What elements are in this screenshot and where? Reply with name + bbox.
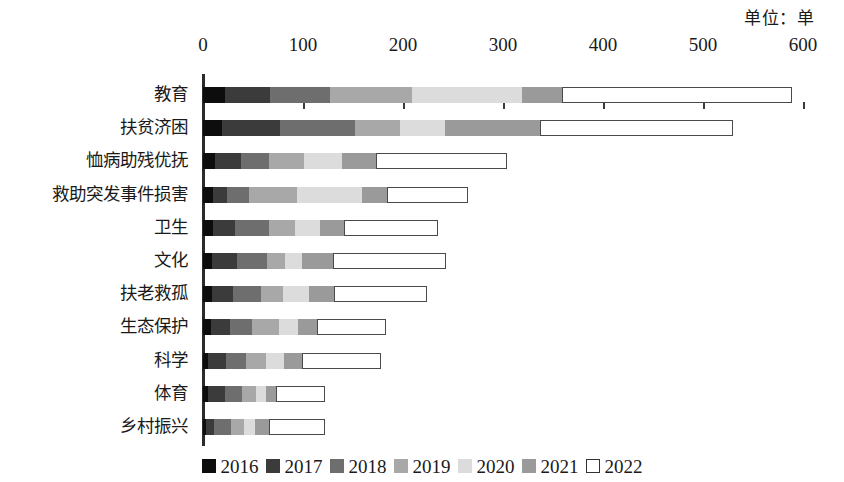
bar-row (203, 87, 803, 103)
legend-label: 2020 (477, 457, 515, 476)
bar-segment-2021 (309, 286, 334, 302)
legend-label: 2017 (285, 457, 323, 476)
unit-label: 单位：单 (744, 4, 814, 29)
bar-segment-2022 (269, 419, 325, 435)
x-tick-label-300: 300 (489, 34, 518, 56)
bar-segment-2022 (540, 120, 733, 136)
bar-segment-2018 (270, 87, 330, 103)
bar-segment-2021 (522, 87, 562, 103)
x-tick-label-100: 100 (289, 34, 318, 56)
legend-item-2021[interactable]: 2021 (522, 457, 579, 476)
bar-segment-2022 (376, 153, 507, 169)
bar-segment-2017 (211, 319, 230, 335)
bar-segment-2018 (214, 419, 231, 435)
bar-row (203, 319, 803, 335)
category-label: 文化 (154, 252, 188, 270)
bar-row (203, 220, 803, 236)
x-tick-mark-600 (803, 102, 805, 109)
bar-segment-2019 (249, 187, 297, 203)
x-tick-label-500: 500 (689, 34, 718, 56)
bar-segment-2020 (304, 153, 342, 169)
bar-segment-2018 (226, 353, 246, 369)
bar-segment-2022 (317, 319, 386, 335)
bar-segment-2022 (562, 87, 792, 103)
x-tick-label-600: 600 (789, 34, 818, 56)
bar-segment-2022 (387, 187, 468, 203)
legend-label: 2018 (349, 457, 387, 476)
x-tick-label-0: 0 (198, 34, 208, 56)
bar-segment-2017 (208, 353, 226, 369)
x-axis-tick-labels: 0100200300400500600 (0, 34, 844, 62)
bar-segment-2016 (203, 87, 225, 103)
bar-segment-2017 (212, 286, 233, 302)
bar-segment-2017 (225, 87, 270, 103)
category-label: 恤病助残优抚 (86, 152, 188, 170)
bar-segment-2021 (284, 353, 302, 369)
category-label: 生态保护 (120, 318, 188, 336)
bar-segment-2021 (266, 386, 276, 402)
bar-segment-2020 (256, 386, 266, 402)
bar-segment-2018 (237, 253, 267, 269)
legend-label: 2016 (221, 457, 259, 476)
legend-item-2017[interactable]: 2017 (266, 457, 323, 476)
category-label: 乡村振兴 (120, 418, 188, 436)
bar-row (203, 286, 803, 302)
category-label: 体育 (154, 385, 188, 403)
bar-segment-2018 (227, 187, 249, 203)
bar-segment-2021 (445, 120, 540, 136)
bar-segment-2018 (225, 386, 242, 402)
category-label: 扶老救孤 (120, 285, 188, 303)
legend-item-2019[interactable]: 2019 (394, 457, 451, 476)
bar-row (203, 153, 803, 169)
legend-label: 2022 (605, 457, 643, 476)
legend-swatch-icon (394, 459, 408, 473)
bar-segment-2018 (230, 319, 252, 335)
bar-segment-2016 (203, 253, 212, 269)
bar-segment-2017 (208, 386, 225, 402)
bar-row (203, 120, 803, 136)
bar-segment-2020 (279, 319, 298, 335)
bar-segment-2020 (285, 253, 302, 269)
bar-segment-2017 (222, 120, 280, 136)
bar-row (203, 353, 803, 369)
bar-segment-2021 (342, 153, 376, 169)
legend-item-2022[interactable]: 2022 (586, 457, 643, 476)
legend-item-2020[interactable]: 2020 (458, 457, 515, 476)
x-tick-label-400: 400 (589, 34, 618, 56)
legend-item-2016[interactable]: 2016 (202, 457, 259, 476)
bar-segment-2022 (344, 220, 438, 236)
legend-swatch-icon (586, 459, 600, 473)
bar-segment-2016 (203, 120, 222, 136)
bar-segment-2020 (244, 419, 255, 435)
bar-segment-2019 (355, 120, 400, 136)
bar-segment-2018 (235, 220, 269, 236)
bar-segment-2019 (242, 386, 256, 402)
legend-swatch-icon (202, 459, 216, 473)
bar-segment-2020 (283, 286, 309, 302)
category-label: 扶贫济困 (120, 119, 188, 137)
bar-segment-2016 (203, 286, 212, 302)
bar-segment-2019 (252, 319, 279, 335)
bar-segment-2019 (231, 419, 244, 435)
x-tick-label-200: 200 (389, 34, 418, 56)
legend-swatch-icon (330, 459, 344, 473)
bar-segment-2022 (302, 353, 381, 369)
bar-segment-2022 (334, 286, 427, 302)
bar-row (203, 419, 803, 435)
bar-segment-2021 (362, 187, 387, 203)
bar-segment-2017 (213, 220, 235, 236)
bar-segment-2022 (276, 386, 325, 402)
bar-segment-2019 (246, 353, 266, 369)
legend-swatch-icon (266, 459, 280, 473)
bar-segment-2018 (280, 120, 355, 136)
bar-row (203, 386, 803, 402)
plot-area (203, 78, 803, 443)
bar-segment-2019 (269, 153, 304, 169)
bar-segment-2020 (295, 220, 320, 236)
bar-segment-2020 (400, 120, 445, 136)
bar-segment-2021 (302, 253, 333, 269)
bar-segment-2016 (203, 153, 215, 169)
bar-row (203, 187, 803, 203)
bar-segment-2016 (203, 187, 213, 203)
legend-item-2018[interactable]: 2018 (330, 457, 387, 476)
